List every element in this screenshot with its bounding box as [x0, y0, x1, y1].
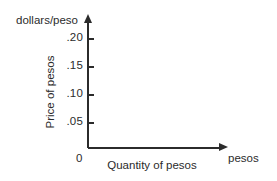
y-axis-unit-label: dollars/peso: [16, 14, 78, 26]
plot-area: [89, 22, 222, 147]
y-axis-tick-label: .20: [44, 32, 83, 44]
exchange-rate-chart: dollars/peso .20 .15 .10 .05 Price of pe…: [0, 0, 277, 181]
x-axis-unit-label: pesos: [228, 152, 259, 164]
x-axis-title: Quantity of pesos: [107, 159, 197, 171]
y-axis-title: Price of pesos: [44, 56, 56, 129]
x-axis-line: [88, 147, 222, 149]
origin-label: 0: [76, 152, 82, 164]
